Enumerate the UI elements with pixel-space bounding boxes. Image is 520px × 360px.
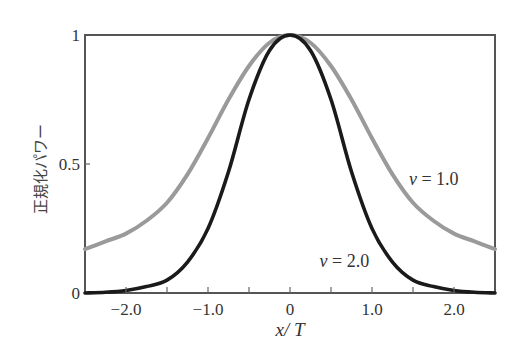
x-tick-label: 1.0 xyxy=(361,300,382,319)
series-label: v = 2.0 xyxy=(320,251,370,271)
y-tick-label: 0.5 xyxy=(59,155,80,174)
y-tick-label: 1 xyxy=(72,26,81,45)
y-tick-label: 0 xyxy=(72,284,81,303)
x-tick-label: 2.0 xyxy=(443,300,464,319)
chart: −2.0−1.001.02.000.51x/ T正規化パワー v = 1.0v … xyxy=(0,0,520,360)
series-label: v = 1.0 xyxy=(409,169,459,189)
plot-border xyxy=(85,35,495,293)
series-layer xyxy=(85,35,495,293)
y-axis-label: 正規化パワー xyxy=(32,124,50,214)
series-line-2 xyxy=(85,35,495,293)
series-line-1 xyxy=(85,35,495,249)
x-axis-label: x/ T xyxy=(274,319,305,340)
x-tick-label: 0 xyxy=(286,300,295,319)
x-tick-label: −1.0 xyxy=(193,300,224,319)
plot-frame xyxy=(85,35,495,293)
x-tick-label: −2.0 xyxy=(111,300,142,319)
